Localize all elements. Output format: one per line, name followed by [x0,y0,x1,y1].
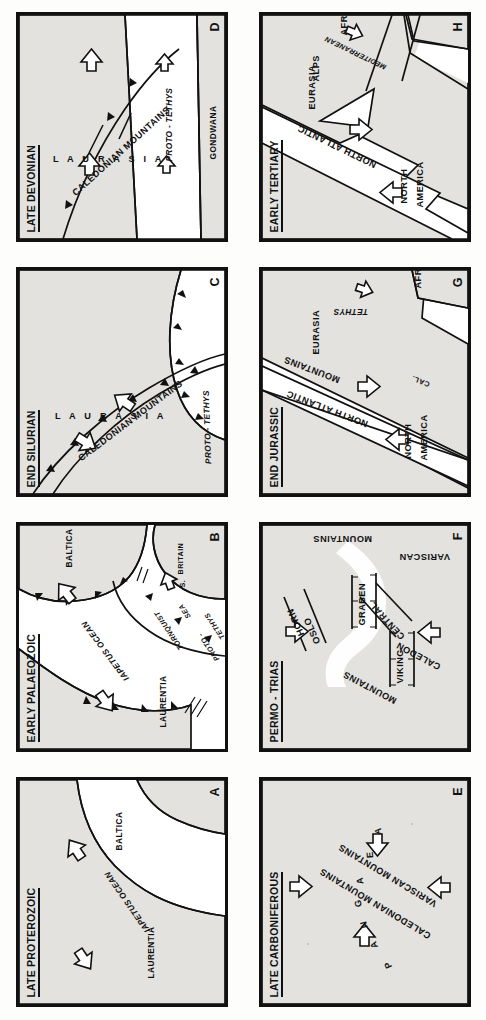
label-america: AMERICA [420,414,430,460]
panel-id-b: B [208,533,222,542]
panel-title-d: LATE DEVONIAN [25,145,40,233]
panel-id-e: E [451,788,465,796]
label-baltica: BALTICA [65,529,74,568]
label-alps: ALPS [312,55,322,81]
label-s-prefix: S. [179,580,187,588]
map-panel-f[interactable]: PERMO - TRIAS F CALEDON MOUNTAINS VIKING… [259,523,471,753]
panel-cell-b: EARLY PALAEOZOIC B LAURENTIA IAPETUS OCE… [0,510,243,765]
panel-title-e: LATE CARBONIFEROUS [268,872,283,998]
label-pangaea-a3: A [374,827,384,834]
map-artwork-c [19,271,225,495]
label-proto-tethys: PROTO - TETHYS [165,88,174,162]
label-north: NORTH [404,424,414,459]
map-panel-e[interactable]: LATE CARBONIFEROUS E P A N G A E A CALED… [259,778,471,1008]
figure-page: LATE PROTEROZOIC A LAURENTIA IAPETUS OCE… [0,0,486,1020]
map-artwork-g [262,271,468,495]
label-viking: VIKING [396,649,406,683]
map-panel-d[interactable]: LATE DEVONIAN D L A U R A S I A CALEDONI… [16,13,228,243]
label-north: NORTH [400,169,410,204]
panel-cell-d: LATE DEVONIAN D L A U R A S I A CALEDONI… [0,0,243,255]
panel-title-b: EARLY PALAEOZOIC [25,634,40,743]
map-panel-a[interactable]: LATE PROTEROZOIC A LAURENTIA IAPETUS OCE… [16,778,228,1008]
label-africa: AFRICA [340,13,350,36]
panel-title-a: LATE PROTEROZOIC [25,888,40,998]
map-artwork-h [262,16,468,240]
map-panel-h[interactable]: EARLY TERTIARY H NORTH AMERICA NORTH ATL… [259,13,471,243]
label-laurentia: LAURENTIA [147,927,156,979]
panel-cell-a: LATE PROTEROZOIC A LAURENTIA IAPETUS OCE… [0,765,243,1020]
panel-cell-h: EARLY TERTIARY H NORTH AMERICA NORTH ATL… [243,0,486,255]
panel-id-g: G [451,278,465,288]
label-graben: GRABEN [358,583,368,626]
label-proto-tethys: PROTO - TETHYS [201,391,212,465]
panel-cell-c: END SILURIAN C L A U R A S I A CALEDONIA… [0,255,243,510]
map-panel-b[interactable]: EARLY PALAEOZOIC B LAURENTIA IAPETUS OCE… [16,523,228,753]
panel-title-h: EARLY TERTIARY [268,140,283,232]
label-gondwana: GONDWANA [209,106,218,160]
panel-cell-f: PERMO - TRIAS F CALEDON MOUNTAINS VIKING… [243,510,486,765]
label-britain: BRITAIN [177,543,185,575]
label-laurasia: L A U R A S I A [55,413,166,423]
label-baltica: BALTICA [115,812,124,851]
panel-title-c: END SILURIAN [25,410,40,487]
label-variscan-mountains: MOUNTAINS [313,534,372,544]
panel-title-g: END JURASSIC [268,407,283,488]
label-america: AMERICA [416,161,426,207]
panel-id-d: D [208,23,222,32]
panel-id-c: C [208,278,222,287]
panel-id-f: F [451,533,465,541]
panel-id-a: A [208,788,222,797]
map-panel-c[interactable]: END SILURIAN C L A U R A S I A CALEDONIA… [16,268,228,498]
map-artwork-b [19,526,225,750]
panel-grid: LATE PROTEROZOIC A LAURENTIA IAPETUS OCE… [0,0,486,1020]
map-panel-g[interactable]: END JURASSIC G NORTH AMERICA NORTH ATLAN… [259,268,471,498]
label-africa: AFRICA [414,268,424,289]
panel-id-h: H [451,23,465,32]
panel-title-f: PERMO - TRIAS [268,661,283,743]
label-laurentia: LAURENTIA [159,676,168,728]
panel-cell-g: END JURASSIC G NORTH AMERICA NORTH ATLAN… [243,255,486,510]
map-artwork-d [19,16,225,240]
label-eurasia: EURASIA [312,310,322,355]
label-variscan: VARISCAN [399,552,450,562]
panel-cell-e: LATE CARBONIFEROUS E P A N G A E A CALED… [243,765,486,1020]
label-tethys: TETHYS [333,308,368,317]
